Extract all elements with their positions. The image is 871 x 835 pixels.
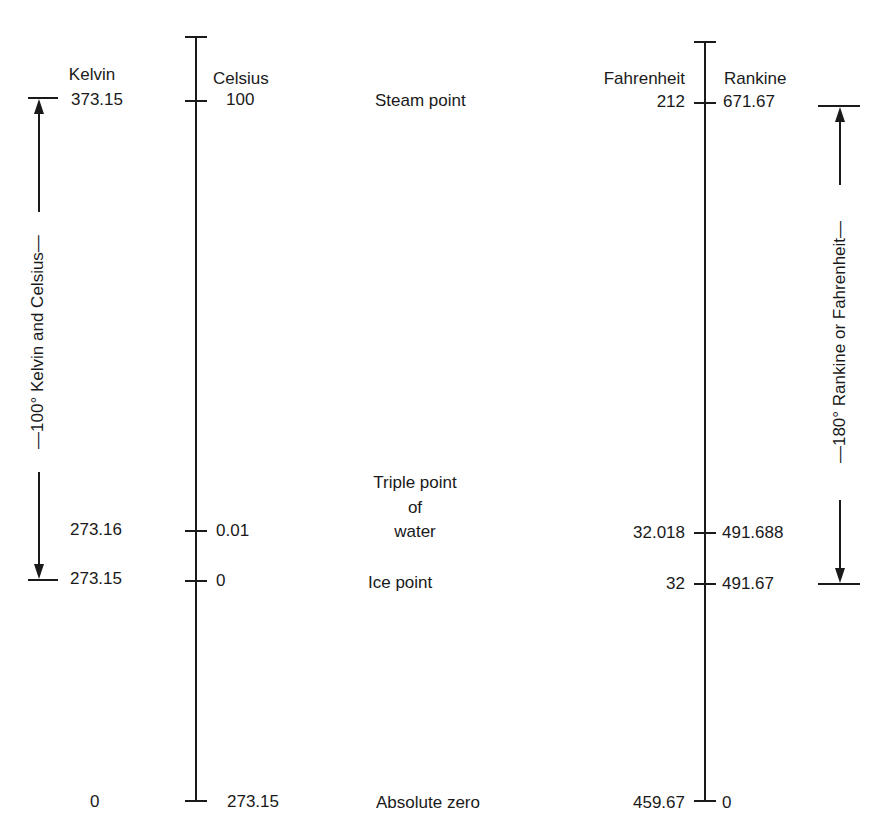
left-arrow-up-icon [34, 99, 44, 114]
triple-point-label-line3: water [355, 522, 475, 542]
kelvin-zero-value: 0 [90, 792, 99, 812]
ice-point-label: Ice point [368, 573, 432, 593]
left-bracket-label: —100° Kelvin and Celsius— [28, 212, 48, 472]
right-arrow-up-icon [835, 107, 845, 122]
kelvin-ice-value: 273.15 [70, 569, 122, 589]
steam-point-label: Steam point [375, 91, 466, 111]
celsius-triple-value: 0.01 [216, 521, 249, 541]
celsius-zero-value: 273.15 [227, 792, 279, 812]
right-arrow-down-icon [835, 568, 845, 583]
scale-diagram [0, 0, 871, 835]
fahrenheit-header: Fahrenheit [570, 69, 685, 89]
fahrenheit-steam-value: 212 [600, 92, 685, 112]
absolute-zero-label: Absolute zero [376, 793, 480, 813]
triple-point-label-line1: Triple point [355, 473, 475, 493]
rankine-triple-value: 491.688 [722, 523, 783, 543]
fahrenheit-zero-value: 459.67 [600, 793, 685, 813]
left-arrow-down-icon [34, 564, 44, 579]
right-bracket-label: —180° Rankine or Fahrenheit— [830, 212, 850, 472]
rankine-header: Rankine [724, 69, 786, 89]
fahrenheit-triple-value: 32.018 [600, 523, 685, 543]
celsius-steam-value: 100 [226, 90, 254, 110]
triple-point-label-line2: of [355, 498, 475, 518]
kelvin-triple-value: 273.16 [70, 520, 122, 540]
rankine-ice-value: 491.67 [722, 574, 774, 594]
celsius-ice-value: 0 [216, 571, 225, 591]
kelvin-steam-value: 373.15 [62, 90, 132, 110]
fahrenheit-ice-value: 32 [600, 574, 685, 594]
rankine-zero-value: 0 [722, 793, 731, 813]
rankine-steam-value: 671.67 [723, 92, 775, 112]
kelvin-header: Kelvin [62, 65, 122, 85]
celsius-header: Celsius [213, 69, 269, 89]
